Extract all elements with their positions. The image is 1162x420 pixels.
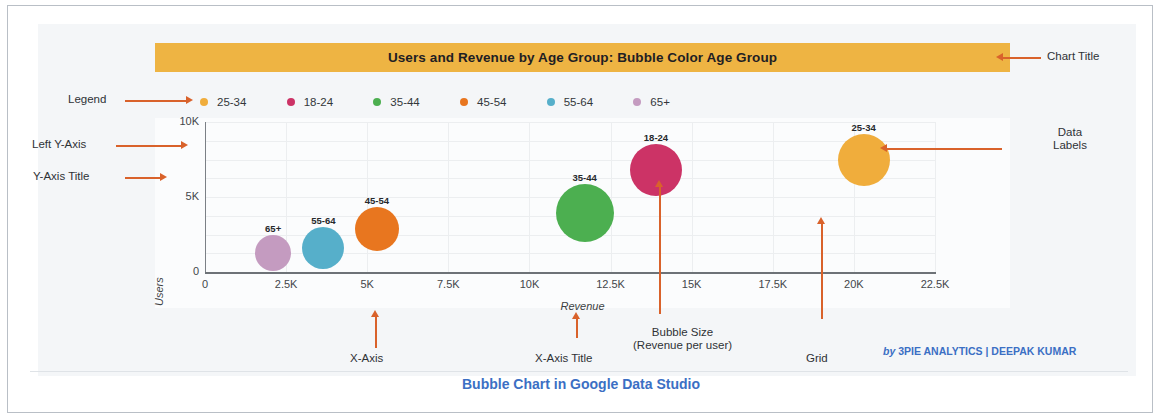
gridline-horizontal [205,122,935,123]
chart-title: Users and Revenue by Age Group: Bubble C… [388,50,777,65]
bubble-45-54[interactable] [355,207,399,251]
legend-item-label: 55-64 [564,96,593,108]
figure-caption: Bubble Chart in Google Data Studio [0,376,1162,392]
x-axis-tick-label: 20K [824,278,884,290]
grid-arrow-head [817,217,825,224]
legend-item-35-44[interactable]: 35-44 [373,96,460,108]
plot-area: 65+55-6445-5435-4418-2425-34 [205,122,935,272]
bubble-65+[interactable] [255,235,291,271]
y-axis-title-arrow-head [160,173,167,181]
legend-swatch-icon [633,98,641,106]
data-label-65+: 65+ [251,223,295,234]
credit-text: by 3PIE ANALYTICS | DEEPAK KUMAR [883,345,1076,357]
bubble-18-24[interactable] [630,144,682,196]
annotation-x-axis: X-Axis [350,352,383,365]
gridline-vertical [935,122,936,272]
chart-title-arrow-line [1003,57,1041,59]
annotation-bubble-size-line2: (Revenue per user) [633,339,732,351]
x-axis-title-arrow-head [572,312,580,319]
bubble-size-arrow-head [655,180,663,187]
annotation-data-labels: Data Labels [1053,126,1087,152]
annotation-left-y-axis: Left Y-Axis [32,138,86,151]
legend-item-45-54[interactable]: 45-54 [460,96,547,108]
gridline-horizontal [205,160,935,161]
annotation-bubble-size: Bubble Size (Revenue per user) [633,326,732,352]
legend-item-label: 25-34 [217,96,246,108]
legend-arrow-head [186,96,193,104]
legend-item-65+[interactable]: 65+ [633,96,720,108]
x-axis-tick-label: 15K [662,278,722,290]
bubble-size-arrow-line [659,186,661,314]
annotation-y-axis-title: Y-Axis Title [33,170,89,183]
x-axis-tick-label: 10K [499,278,559,290]
chart-legend: 25-3418-2435-4445-5455-6465+ [200,92,720,112]
data-labels-arrow-line [886,148,1002,150]
x-axis-arrow-head [371,310,379,317]
gridline-horizontal [205,141,935,142]
credit-prefix: by [883,345,895,357]
x-axis-title: Revenue [155,300,1010,312]
x-axis-tick-label: 17.5K [743,278,803,290]
chart-title-arrow-head [996,53,1003,61]
annotation-chart-title: Chart Title [1047,50,1099,63]
bubble-25-34[interactable] [838,134,890,186]
x-axis-tick-label: 2.5K [256,278,316,290]
data-label-35-44: 35-44 [563,172,607,183]
left-y-axis-arrow-line [116,145,182,147]
x-axis-tick-label: 12.5K [581,278,641,290]
y-axis-title-arrow-line [125,177,161,179]
legend-swatch-icon [200,98,208,106]
data-labels-arrow-head [880,144,887,152]
y-axis-tick-label: 10K [159,115,199,127]
annotation-data-labels-line2: Labels [1053,139,1087,151]
legend-item-25-34[interactable]: 25-34 [200,96,287,108]
legend-item-label: 65+ [650,96,670,108]
bubble-35-44[interactable] [556,184,614,242]
annotation-bubble-size-line1: Bubble Size [652,326,713,338]
data-label-55-64: 55-64 [301,215,345,226]
caption-divider [30,371,1128,372]
legend-swatch-icon [287,98,295,106]
data-label-18-24: 18-24 [634,132,678,143]
x-axis-title-arrow-line [576,318,578,338]
x-axis-tick-label: 22.5K [905,278,965,290]
x-axis-line [205,272,936,274]
bubble-55-64[interactable] [302,227,344,269]
credit-brand: 3PIE ANALYTICS | DEEPAK KUMAR [898,345,1076,357]
annotation-data-labels-line1: Data [1058,126,1082,138]
legend-swatch-icon [460,98,468,106]
x-axis-arrow-line [375,316,377,348]
data-label-25-34: 25-34 [842,122,886,133]
left-y-axis-arrow-head [181,141,188,149]
x-axis-tick-label: 7.5K [418,278,478,290]
legend-swatch-icon [373,98,381,106]
legend-item-label: 35-44 [390,96,419,108]
legend-item-label: 18-24 [304,96,333,108]
chart-title-bar: Users and Revenue by Age Group: Bubble C… [155,43,1010,72]
annotation-x-axis-title: X-Axis Title [535,352,593,365]
data-label-45-54: 45-54 [355,195,399,206]
x-axis-tick-label: 0 [175,278,235,290]
legend-swatch-icon [547,98,555,106]
y-axis-tick-label: 5K [159,190,199,202]
annotation-legend: Legend [68,93,106,106]
x-axis-tick-label: 5K [337,278,397,290]
legend-item-55-64[interactable]: 55-64 [547,96,634,108]
annotation-grid: Grid [806,352,828,365]
legend-item-18-24[interactable]: 18-24 [287,96,374,108]
legend-item-label: 45-54 [477,96,506,108]
grid-arrow-line [821,223,823,319]
legend-arrow-line [125,100,187,102]
y-axis-line [205,122,206,273]
figure-container: Users and Revenue by Age Group: Bubble C… [0,0,1162,420]
y-axis-tick-label: 0 [159,265,199,277]
